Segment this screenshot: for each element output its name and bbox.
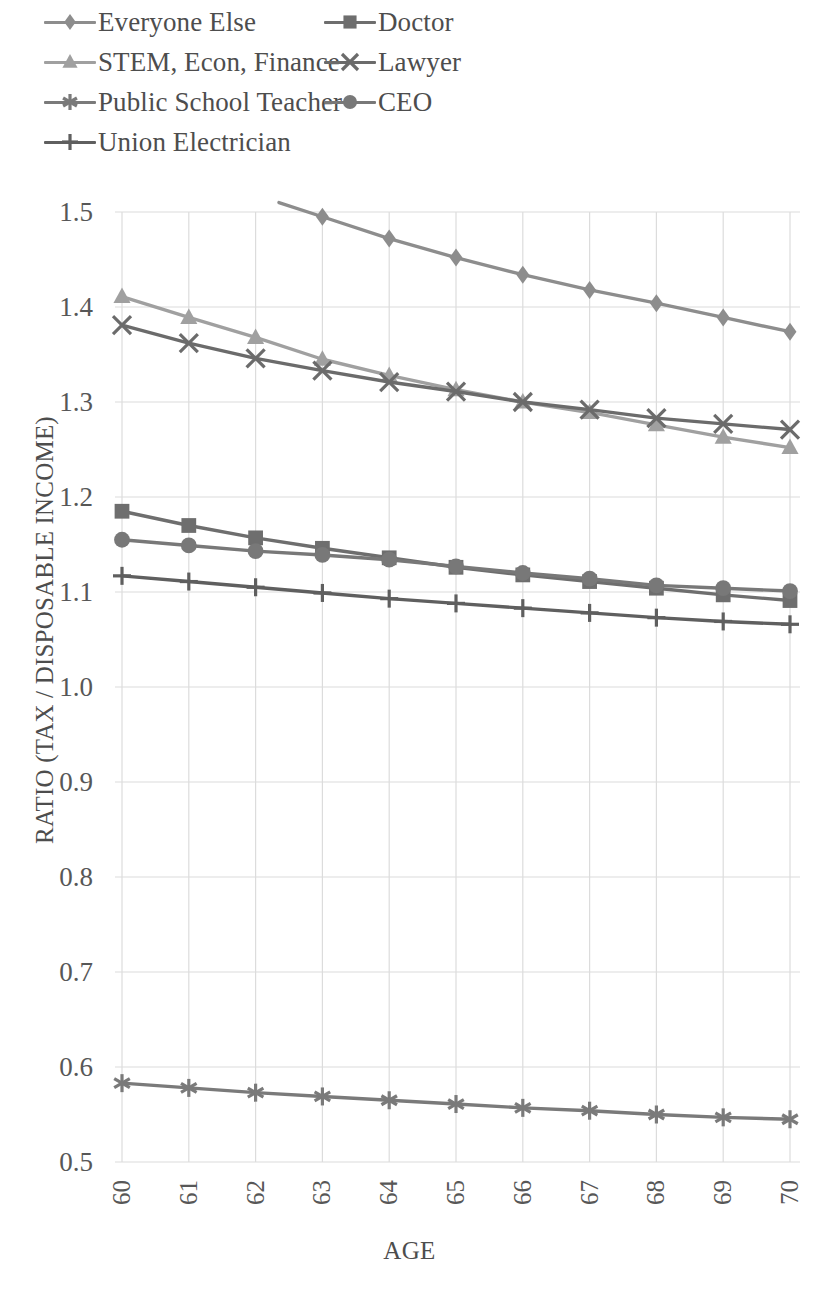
x-tick-label: 67 bbox=[577, 1180, 602, 1205]
legend-label: Union Electrician bbox=[98, 129, 291, 156]
legend-item-everyone-else[interactable]: Everyone Else bbox=[44, 9, 324, 36]
x-tick-label: 70 bbox=[777, 1180, 802, 1205]
legend-label: Public School Teacher bbox=[98, 89, 342, 116]
triangle-marker-icon bbox=[44, 51, 96, 73]
legend-item-lawyer[interactable]: Lawyer bbox=[324, 49, 461, 76]
legend-item-stem-econ-finance[interactable]: STEM, Econ, Finance bbox=[44, 49, 324, 76]
x-tick-label: 64 bbox=[376, 1180, 401, 1205]
x-tick-label: 62 bbox=[243, 1180, 268, 1205]
x-axis-title: AGE bbox=[0, 1237, 819, 1265]
legend-label: Lawyer bbox=[378, 49, 461, 76]
asterisk-marker-icon bbox=[44, 91, 96, 113]
x-tick-label: 63 bbox=[309, 1180, 334, 1205]
chart-canvas bbox=[0, 186, 819, 1292]
x-tick-label: 60 bbox=[109, 1180, 134, 1205]
legend-row: STEM, Econ, FinanceLawyer bbox=[44, 42, 819, 82]
square-marker-icon bbox=[324, 11, 376, 33]
circle-marker-icon bbox=[324, 91, 376, 113]
x-tick-label: 66 bbox=[510, 1180, 535, 1205]
x-tick-label: 65 bbox=[443, 1180, 468, 1205]
legend-item-ceo[interactable]: CEO bbox=[324, 89, 432, 116]
legend-label: Doctor bbox=[378, 9, 454, 36]
legend-label: CEO bbox=[378, 89, 432, 116]
gridlines bbox=[115, 212, 800, 1162]
legend-label: Everyone Else bbox=[98, 9, 256, 36]
chart-legend: Everyone ElseDoctorSTEM, Econ, FinanceLa… bbox=[0, 0, 819, 186]
diamond-marker-icon bbox=[44, 11, 96, 33]
x-tick-label: 61 bbox=[176, 1180, 201, 1205]
legend-item-doctor[interactable]: Doctor bbox=[324, 9, 454, 36]
plot-area: RATIO (TAX / DISPOSABLE INCOME) 0.50.60.… bbox=[0, 186, 819, 1292]
x-tick-label: 68 bbox=[643, 1180, 668, 1205]
plus-marker-icon bbox=[44, 131, 96, 153]
legend-item-public-school-teacher[interactable]: Public School Teacher bbox=[44, 89, 324, 116]
x-marker-icon bbox=[324, 51, 376, 73]
legend-item-union-electrician[interactable]: Union Electrician bbox=[44, 129, 291, 156]
legend-label: STEM, Econ, Finance bbox=[98, 49, 340, 76]
legend-row: Union Electrician bbox=[44, 122, 819, 162]
x-tick-label: 69 bbox=[710, 1180, 735, 1205]
series-everyone-else bbox=[279, 203, 797, 341]
legend-row: Everyone ElseDoctor bbox=[44, 2, 819, 42]
legend-row: Public School TeacherCEO bbox=[44, 82, 819, 122]
